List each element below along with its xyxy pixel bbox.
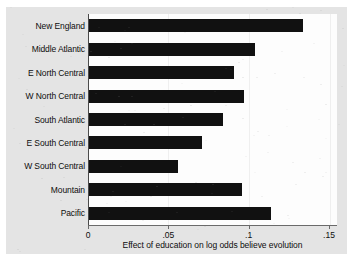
speckle	[128, 110, 130, 111]
speckle	[211, 193, 213, 194]
speckle	[304, 172, 306, 173]
speckle	[292, 162, 294, 163]
speckle	[267, 152, 269, 153]
speckle	[13, 128, 15, 129]
speckle	[343, 65, 345, 66]
speckle	[313, 43, 315, 44]
bar	[88, 136, 202, 149]
speckle	[17, 249, 19, 250]
speckle	[342, 28, 344, 29]
x-tick-label: .1	[245, 230, 252, 240]
speckle	[120, 166, 122, 167]
speckle	[274, 73, 276, 74]
speckle	[26, 89, 28, 90]
speckle	[131, 43, 133, 44]
speckle	[153, 124, 155, 125]
x-axis-line	[88, 225, 337, 226]
speckle	[252, 235, 254, 236]
speckle	[325, 172, 327, 173]
speckle	[261, 196, 263, 197]
speckle	[114, 41, 116, 42]
speckle	[242, 77, 244, 78]
speckle	[25, 46, 27, 47]
speckle	[212, 184, 214, 185]
category-label: W North Central	[5, 91, 85, 101]
speckle	[126, 249, 128, 250]
bar	[88, 207, 271, 220]
speckle	[120, 48, 122, 49]
speckle	[325, 138, 327, 139]
y-axis-line	[88, 14, 89, 225]
speckle	[41, 178, 43, 179]
category-axis-labels: New EnglandMiddle AtlanticE North Centra…	[2, 14, 85, 225]
speckle	[150, 196, 152, 197]
category-label: E North Central	[5, 68, 85, 78]
bar	[88, 160, 178, 173]
speckle	[163, 108, 165, 109]
speckle	[108, 57, 110, 58]
speckle	[184, 32, 186, 33]
x-tick-mark	[329, 225, 330, 229]
speckle	[86, 199, 88, 200]
bar	[88, 113, 223, 126]
speckle	[325, 104, 327, 105]
x-tick-mark	[249, 225, 250, 229]
speckle	[156, 186, 158, 187]
speckle	[140, 242, 142, 243]
speckle	[128, 27, 130, 28]
speckle	[320, 10, 322, 11]
speckle	[322, 176, 324, 177]
speckle	[303, 77, 305, 78]
speckle	[110, 196, 112, 197]
speckle	[225, 105, 227, 106]
bar	[88, 66, 234, 79]
x-tick-label: .05	[162, 230, 174, 240]
speckle	[10, 7, 12, 8]
speckle	[22, 34, 24, 35]
speckle	[257, 131, 259, 132]
speckle	[295, 184, 297, 185]
speckle	[299, 13, 301, 14]
speckle	[338, 124, 340, 125]
speckle	[125, 201, 127, 202]
speckle	[84, 249, 86, 250]
speckle	[287, 215, 289, 216]
category-label: W South Central	[5, 161, 85, 171]
category-label: New England	[5, 21, 85, 31]
speckle	[320, 84, 322, 85]
speckle	[70, 56, 72, 57]
speckle	[204, 226, 206, 227]
speckle	[256, 243, 258, 244]
speckle	[197, 229, 199, 230]
chart-screenshot: New EnglandMiddle AtlanticE North Centra…	[0, 0, 353, 271]
x-tick-mark	[168, 225, 169, 229]
speckle	[225, 68, 227, 69]
speckle	[57, 71, 59, 72]
category-label: South Atlantic	[5, 115, 85, 125]
speckle	[254, 172, 256, 173]
speckle	[74, 187, 76, 188]
speckle	[134, 110, 136, 111]
x-tick-mark	[88, 225, 89, 229]
speckle	[190, 105, 192, 106]
speckle	[131, 96, 133, 97]
x-axis-title: Effect of education on log odds believe …	[88, 240, 337, 250]
bar	[88, 90, 244, 103]
bar	[88, 43, 255, 56]
category-label: E South Central	[5, 138, 85, 148]
speckle	[98, 27, 100, 28]
speckle	[78, 145, 80, 146]
speckle	[55, 47, 57, 48]
speckle	[230, 69, 232, 70]
speckle	[268, 135, 270, 136]
speckle	[195, 182, 197, 183]
speckle	[63, 177, 65, 178]
speckle	[205, 140, 207, 141]
x-tick-label: 0	[86, 230, 91, 240]
speckle	[242, 59, 244, 60]
category-label: Pacific	[5, 208, 85, 218]
speckle	[319, 158, 321, 159]
speckle	[214, 91, 216, 92]
speckle	[245, 156, 247, 157]
speckle	[68, 21, 70, 22]
